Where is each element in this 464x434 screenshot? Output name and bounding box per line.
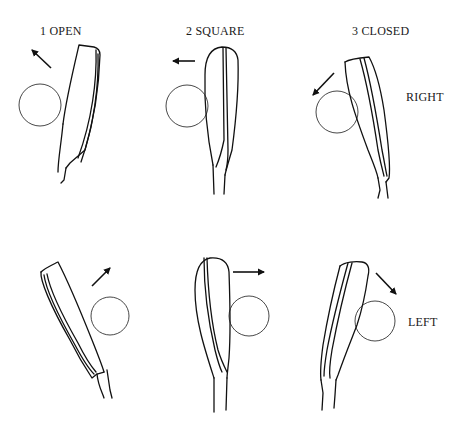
arrow-down-right-icon	[376, 273, 396, 294]
panel-right-square	[166, 47, 238, 194]
club-head-icon	[41, 262, 112, 398]
golf-ball-icon	[19, 84, 61, 126]
golf-ball-icon	[316, 91, 358, 133]
arrow-up-left-icon	[32, 50, 51, 68]
diagram-canvas	[0, 0, 464, 434]
club-head-icon	[195, 258, 230, 412]
arrow-up-right-icon	[92, 268, 110, 286]
club-head-icon	[58, 45, 100, 183]
golf-ball-icon	[91, 297, 129, 335]
panel-left-open	[41, 262, 129, 398]
panel-right-open	[19, 45, 100, 183]
golf-ball-icon	[355, 301, 395, 341]
golf-ball-icon	[166, 85, 208, 127]
club-head-icon	[205, 47, 238, 194]
panel-left-square	[195, 258, 269, 412]
panel-right-closed	[313, 57, 390, 198]
panel-left-closed	[321, 262, 396, 410]
golf-ball-icon	[229, 296, 269, 336]
